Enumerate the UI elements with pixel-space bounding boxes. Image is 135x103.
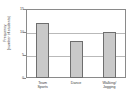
y-tick-label-15: 15 bbox=[8, 7, 24, 11]
bar-2 bbox=[103, 32, 116, 78]
y-tick-label-0: 0 bbox=[8, 76, 24, 80]
bars-layer bbox=[26, 9, 126, 78]
bar-1 bbox=[70, 41, 83, 78]
y-tick-mark-0 bbox=[23, 78, 26, 79]
x-category-label-2: Walking/Jogging bbox=[91, 81, 127, 90]
y-tick-label-5: 5 bbox=[8, 53, 24, 57]
x-category-label-1: Dance bbox=[58, 81, 94, 85]
x-category-label-0: TeamSports bbox=[25, 81, 61, 90]
bar-chart: Frequency (number of students) 051015 Te… bbox=[0, 0, 135, 103]
y-tick-label-10: 10 bbox=[8, 30, 24, 34]
bar-0 bbox=[36, 23, 49, 78]
